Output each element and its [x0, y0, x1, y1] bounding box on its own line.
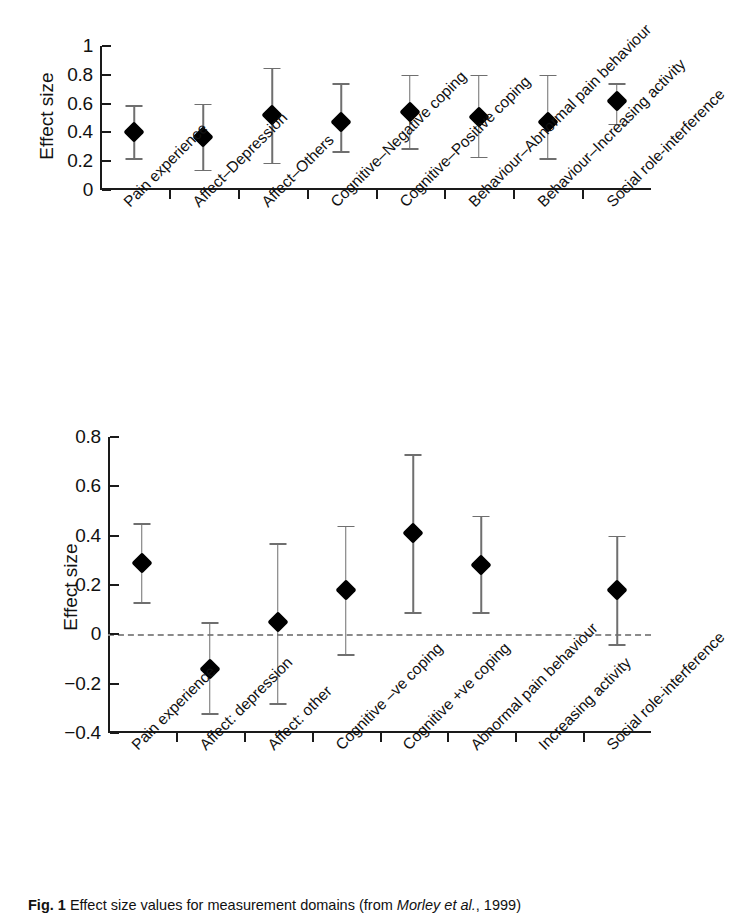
data-point-marker — [267, 611, 288, 632]
error-bar-cap — [473, 516, 490, 518]
y-axis-tick — [110, 732, 119, 734]
error-bar-cap — [470, 75, 487, 77]
error-bar-cap — [333, 83, 350, 85]
error-bar-cap — [269, 543, 286, 545]
y-axis-tick — [110, 485, 119, 487]
y-axis-tick-label: 0.4 — [75, 525, 108, 547]
error-bar-cap — [201, 713, 218, 715]
y-axis-tick — [110, 436, 119, 438]
error-bar-cap — [264, 163, 281, 165]
error-bar-cap — [401, 75, 418, 77]
y-axis-tick-label: 0.2 — [75, 574, 108, 596]
y-axis-tick — [110, 633, 119, 635]
y-axis-tick — [110, 584, 119, 586]
y-axis-tick-label: 0.2 — [67, 150, 100, 172]
y-axis-title-top: Effect size — [36, 41, 58, 191]
chart-panel-top: Effect size 00.20.40.60.81 Pain experien… — [0, 0, 663, 340]
y-axis-tick-label: 0.6 — [67, 93, 100, 115]
error-bar-cap — [608, 83, 625, 85]
y-axis-tick-label: −0.2 — [64, 673, 108, 695]
error-bar-cap — [126, 158, 143, 160]
caption-source: Morley et al. — [397, 897, 476, 913]
y-axis-tick-label: −0.4 — [64, 722, 108, 744]
error-bar-cap — [195, 170, 212, 172]
y-axis-tick-label: 0.8 — [75, 426, 108, 448]
y-axis-tick-label: 1 — [83, 35, 100, 57]
y-axis-tick — [110, 683, 119, 685]
error-bar-cap — [133, 523, 150, 525]
error-bar-cap — [333, 151, 350, 153]
y-axis-tick — [102, 103, 111, 105]
data-point-marker — [471, 555, 492, 576]
error-bar-cap — [609, 536, 626, 538]
data-point-marker — [124, 122, 145, 143]
y-axis-tick — [102, 131, 111, 133]
y-axis-tick — [102, 160, 111, 162]
y-axis-tick-label: 0.6 — [75, 475, 108, 497]
caption-suffix: , 1999) — [476, 897, 521, 913]
y-axis-tick — [102, 45, 111, 47]
data-point-marker — [403, 523, 424, 544]
y-axis-tick — [102, 189, 111, 191]
error-bar-cap — [133, 602, 150, 604]
figure-caption: Fig. 1 Effect size values for measuremen… — [28, 896, 648, 914]
caption-label: Fig. 1 — [28, 897, 66, 913]
error-bar-cap — [539, 158, 556, 160]
error-bar-cap — [195, 104, 212, 106]
error-bar-cap — [401, 148, 418, 150]
y-axis-tick-label: 0 — [83, 179, 100, 201]
error-bar-cap — [405, 454, 422, 456]
error-bar-cap — [126, 105, 143, 107]
y-axis-tick-label: 0.4 — [67, 121, 100, 143]
error-bar-cap — [470, 157, 487, 159]
x-axis-labels-bottom: Pain experienceAffect: depressionAffect:… — [108, 741, 651, 881]
error-bar-cap — [473, 612, 490, 614]
error-bar-cap — [337, 526, 354, 528]
error-bar-cap — [405, 612, 422, 614]
error-bar-cap — [201, 622, 218, 624]
error-bar-cap — [269, 703, 286, 705]
error-bar-cap — [264, 68, 281, 70]
chart-panel-bottom: Effect size −0.4−0.200.20.40.60.8 Pain e… — [0, 400, 663, 900]
data-point-marker — [335, 579, 356, 600]
data-point-marker — [131, 552, 152, 573]
y-axis-tick — [110, 535, 119, 537]
y-axis-tick-label: 0 — [91, 623, 108, 645]
x-axis-labels-top: Pain experienceAffect–DepressionAffect–O… — [100, 198, 651, 328]
y-axis-tick — [102, 74, 111, 76]
data-point-marker — [330, 112, 351, 133]
error-bar-cap — [539, 75, 556, 77]
error-bar-cap — [337, 654, 354, 656]
caption-text: Effect size values for measurement domai… — [70, 897, 397, 913]
data-point-marker — [606, 579, 627, 600]
y-axis-tick-label: 0.8 — [67, 64, 100, 86]
error-bar-cap — [609, 644, 626, 646]
